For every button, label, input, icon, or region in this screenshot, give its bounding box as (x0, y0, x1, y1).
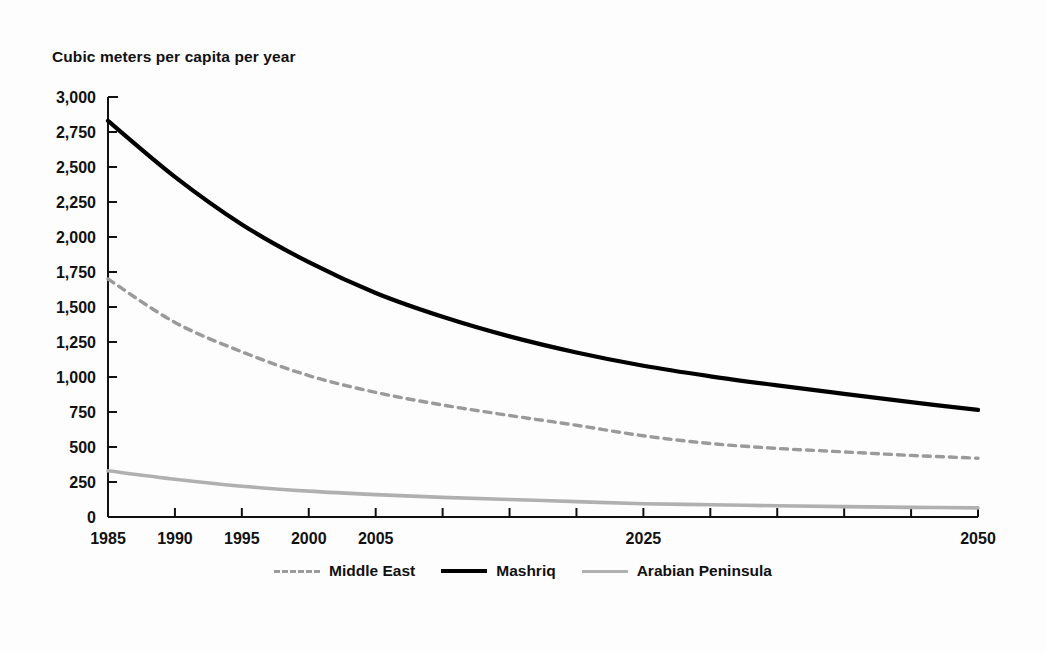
x-axis: 1985199019952000200520252050 (90, 97, 996, 547)
legend-item-label: Arabian Peninsula (637, 562, 772, 580)
legend-swatch-solid-black-line (441, 569, 487, 573)
series-line (108, 279, 978, 458)
y-axis-tick-label: 250 (69, 474, 96, 491)
x-axis-tick-label: 2005 (358, 530, 394, 547)
legend-item[interactable]: Mashriq (441, 562, 555, 580)
y-axis: 3,0002,7502,5002,2502,0001,7501,5001,250… (56, 89, 117, 526)
series-line (108, 121, 978, 410)
x-axis-tick-label: 1985 (90, 530, 126, 547)
x-axis-ticks (175, 508, 911, 517)
y-axis-tick-label: 2,000 (56, 229, 96, 246)
x-axis-tick-label: 2050 (960, 530, 996, 547)
x-axis-tick-label: 1990 (157, 530, 193, 547)
legend-item-label: Mashriq (496, 562, 555, 580)
x-axis-tick-label: 2025 (626, 530, 662, 547)
y-axis-tick-label: 2,250 (56, 194, 96, 211)
y-axis-tick-label: 750 (69, 404, 96, 421)
line-chart-plot: 3,0002,7502,5002,2502,0001,7501,5001,250… (0, 0, 1046, 560)
y-axis-tick-label: 1,750 (56, 264, 96, 281)
series-line (108, 471, 978, 508)
y-axis-tick-label: 1,500 (56, 299, 96, 316)
y-axis-tick-label: 0 (87, 509, 96, 526)
legend-item[interactable]: Arabian Peninsula (582, 562, 772, 580)
x-axis-tick-labels: 1985199019952000200520252050 (90, 530, 996, 547)
legend-item-label: Middle East (329, 562, 415, 580)
y-axis-tick-label: 1,000 (56, 369, 96, 386)
x-axis-tick-label: 1995 (224, 530, 260, 547)
y-axis-tick-label: 2,500 (56, 159, 96, 176)
chart-legend: Middle EastMashriqArabian Peninsula (0, 562, 1046, 580)
x-axis-tick-label: 2000 (291, 530, 327, 547)
legend-swatch-solid-gray-line (582, 570, 628, 573)
legend-item[interactable]: Middle East (274, 562, 415, 580)
y-axis-ticks (108, 97, 117, 482)
y-axis-tick-labels: 3,0002,7502,5002,2502,0001,7501,5001,250… (56, 89, 96, 526)
y-axis-tick-label: 500 (69, 439, 96, 456)
y-axis-tick-label: 2,750 (56, 124, 96, 141)
y-axis-tick-label: 3,000 (56, 89, 96, 106)
data-series-group (108, 121, 978, 508)
y-axis-tick-label: 1,250 (56, 334, 96, 351)
legend-swatch-dashed-gray-line (274, 570, 320, 573)
chart-figure: Cubic meters per capita per year 3,0002,… (0, 0, 1046, 652)
